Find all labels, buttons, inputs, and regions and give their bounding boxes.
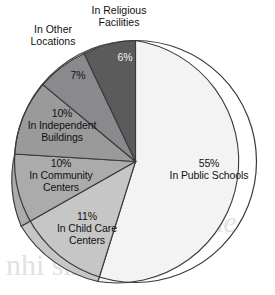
slice-label-public-schools: 55% In Public Schools — [157, 158, 261, 182]
slice-percent-child-care-centers: 11% — [38, 211, 136, 223]
slice-percent-other-locations: 7% — [62, 70, 94, 82]
slice-name-religious-facilities-line2: Facilities — [74, 17, 164, 29]
slice-name-public-schools: In Public Schools — [157, 170, 261, 182]
slice-percent-independent-buildings: 10% — [10, 108, 114, 120]
slice-name-independent-buildings-line2: Buildings — [10, 132, 114, 144]
slice-name-religious-facilities: In Religious Facilities — [74, 5, 164, 29]
slice-name-child-care-centers-line2: Centers — [38, 235, 136, 247]
slice-label-child-care-centers: 11% In Child Care Centers — [38, 211, 136, 246]
slice-name-community-centers-line2: Centers — [13, 182, 109, 194]
slice-name-independent-buildings-line1: In Independent — [10, 120, 114, 132]
slice-label-community-centers: 10% In Community Centers — [13, 158, 109, 193]
slice-name-community-centers-line1: In Community — [13, 170, 109, 182]
slice-percent-community-centers: 10% — [13, 158, 109, 170]
slice-percent-public-schools: 55% — [157, 158, 261, 170]
slice-percent-religious-facilities: 6% — [110, 52, 140, 64]
pie-chart: nomme nhi sn A 55% In Public Schools 11%… — [0, 0, 275, 295]
slice-name-child-care-centers-line1: In Child Care — [38, 223, 136, 235]
slice-name-other-locations-line2: Locations — [14, 36, 92, 48]
slice-label-independent-buildings: 10% In Independent Buildings — [10, 108, 114, 143]
